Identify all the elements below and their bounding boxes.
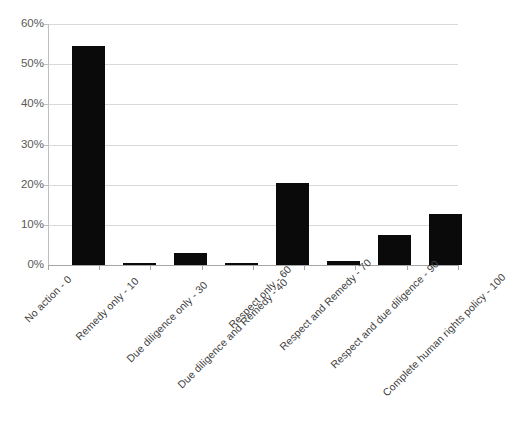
x-tick-mark	[99, 266, 100, 270]
x-axis-labels: No action - 0 Remedy only - 10 Due dilig…	[0, 272, 477, 434]
bar-no-action[interactable]	[72, 46, 105, 265]
x-tick-mark	[202, 266, 203, 270]
chart-title	[0, 0, 477, 2]
bar-respect-and-due-diligence[interactable]	[378, 235, 411, 265]
x-label-respect-only: Respect only - 60	[226, 263, 293, 330]
y-tick-label: 50%	[2, 58, 44, 70]
gridline	[48, 225, 458, 226]
y-tick-label: 60%	[2, 18, 44, 30]
x-tick-mark	[48, 266, 49, 270]
gridline	[48, 104, 458, 105]
x-tick-mark	[304, 266, 305, 270]
x-label-remedy-only: Remedy only - 10	[73, 275, 141, 343]
y-axis-line	[48, 24, 49, 266]
gridline	[48, 24, 458, 25]
x-tick-mark	[253, 266, 254, 270]
gridline	[48, 185, 458, 186]
x-label-no-action: No action - 0	[22, 273, 74, 325]
y-tick-label: 30%	[2, 139, 44, 151]
x-tick-mark	[150, 266, 151, 270]
x-tick-mark	[458, 266, 459, 270]
y-tick-label: 40%	[2, 98, 44, 110]
plot-area	[48, 24, 458, 265]
gridline	[48, 145, 458, 146]
y-tick-label: 20%	[2, 179, 44, 191]
bar-complete-policy[interactable]	[429, 214, 462, 265]
y-tick-label: 0%	[2, 259, 44, 271]
y-tick-label: 10%	[2, 219, 44, 231]
x-label-due-diligence-only: Due diligence only - 30	[124, 279, 210, 365]
x-tick-mark	[407, 266, 408, 270]
bar-due-diligence-only[interactable]	[174, 253, 207, 265]
gridline	[48, 64, 458, 65]
bar-respect-only[interactable]	[276, 183, 309, 265]
